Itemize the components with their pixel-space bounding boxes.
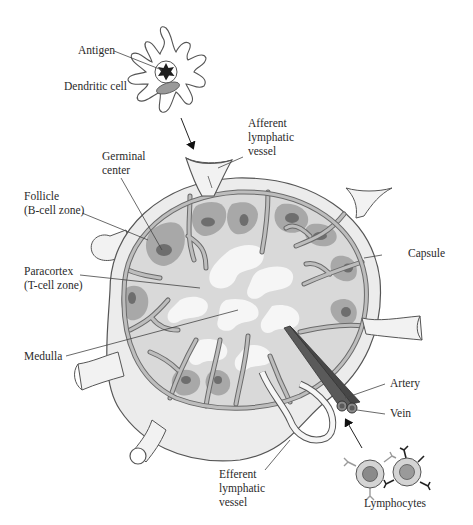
- label-capsule: Capsule: [408, 247, 445, 260]
- germinal-center: [341, 307, 351, 317]
- lymph-node-diagram: Antigen Dendritic cell Afferent lymphati…: [0, 0, 473, 525]
- lymphocytes: [344, 446, 430, 500]
- label-dendritic-cell: Dendritic cell: [64, 80, 127, 92]
- lymph-node: [75, 158, 422, 464]
- label-lymphocytes: Lymphocytes: [364, 497, 426, 510]
- label-antigen: Antigen: [78, 44, 115, 57]
- label-paracortex: Paracortex (T-cell zone): [24, 265, 83, 292]
- lymphocyte-entry-arrow: [346, 420, 362, 448]
- label-medulla: Medulla: [24, 350, 62, 362]
- dendritic-cell: [128, 27, 206, 112]
- label-efferent-lymphatic-vessel: Efferent lymphatic vessel: [219, 468, 268, 508]
- germinal-center: [285, 213, 299, 223]
- germinal-center: [156, 244, 172, 256]
- germinal-center: [240, 214, 249, 226]
- germinal-center: [201, 218, 215, 227]
- label-vein: Vein: [390, 407, 411, 419]
- germinal-center: [214, 376, 222, 384]
- label-germinal-center: Germinal center: [102, 150, 148, 176]
- afferent-vessel-right-top: [346, 188, 392, 218]
- germinal-center: [181, 376, 191, 384]
- label-artery: Artery: [390, 377, 420, 390]
- label-afferent-lymphatic-vessel: Afferent lymphatic vessel: [248, 117, 297, 157]
- b-lymphocyte: [344, 452, 396, 500]
- label-follicle: Follicle (B-cell zone): [24, 190, 85, 217]
- migration-arrow: [181, 118, 193, 148]
- germinal-center: [128, 292, 136, 304]
